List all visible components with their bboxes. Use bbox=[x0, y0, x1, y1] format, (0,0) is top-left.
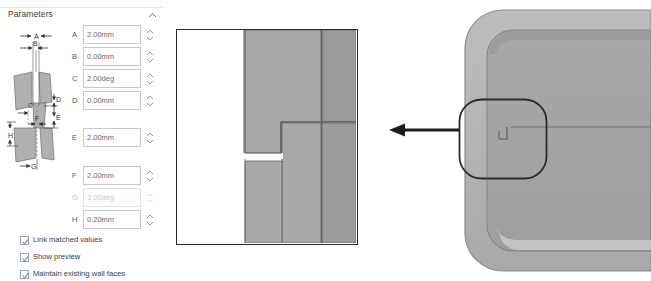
checkbox-checked-icon[interactable] bbox=[20, 270, 29, 279]
svg-text:A: A bbox=[34, 33, 39, 40]
spinner-g bbox=[145, 189, 155, 207]
checkbox-checked-icon[interactable] bbox=[20, 253, 29, 262]
parameter-input-h[interactable]: 0.20mm bbox=[83, 210, 141, 229]
svg-text:H: H bbox=[8, 132, 13, 139]
checkbox-label-link-matched-values: Link matched values bbox=[33, 235, 102, 244]
parameter-row-a[interactable]: A 2.00mm bbox=[72, 25, 164, 45]
panel-header[interactable]: Parameters bbox=[8, 9, 163, 24]
parameter-row-b[interactable]: B 0.00mm bbox=[72, 47, 164, 67]
svg-text:B: B bbox=[33, 40, 38, 47]
spinner-b[interactable] bbox=[145, 48, 155, 66]
parameters-panel: Parameters bbox=[0, 0, 170, 281]
parameter-label-e: E bbox=[72, 133, 81, 142]
parameter-value-d: 0.00mm bbox=[87, 96, 114, 105]
parameter-input-g: 3.00deg bbox=[83, 188, 141, 207]
parameter-label-a: A bbox=[72, 30, 81, 39]
parameter-value-f: 2.00mm bbox=[87, 171, 114, 180]
parameter-input-a[interactable]: 2.00mm bbox=[83, 25, 141, 44]
spinner-c[interactable] bbox=[145, 70, 155, 88]
parameter-row-f[interactable]: F 2.00mm bbox=[72, 166, 164, 186]
parameter-label-f: F bbox=[72, 171, 81, 180]
parameter-value-a: 2.00mm bbox=[87, 30, 114, 39]
parameter-value-e: 2.00mm bbox=[87, 133, 114, 142]
spinner-d[interactable] bbox=[145, 92, 155, 110]
spinner-f[interactable] bbox=[145, 167, 155, 185]
parameter-label-h: H bbox=[72, 215, 81, 224]
section-preview-graphic bbox=[177, 30, 356, 243]
svg-text:D: D bbox=[56, 96, 61, 103]
parameter-label-g: G bbox=[72, 193, 81, 202]
parameters-dimension-diagram: A B C D E F bbox=[6, 28, 70, 178]
svg-text:C: C bbox=[28, 102, 33, 109]
checkbox-label-show-preview: Show preview bbox=[33, 252, 80, 261]
chevron-up-icon[interactable] bbox=[148, 11, 157, 20]
parameter-label-c: C bbox=[72, 74, 81, 83]
feature-dialog-screenshot: Parameters bbox=[0, 0, 651, 281]
parameter-row-e[interactable]: E 2.00mm bbox=[72, 128, 164, 148]
parameter-label-b: B bbox=[72, 52, 81, 61]
checkbox-checked-icon[interactable] bbox=[20, 236, 29, 245]
parameter-input-b[interactable]: 0.00mm bbox=[83, 47, 141, 66]
svg-text:E: E bbox=[56, 114, 61, 121]
section-preview-panel bbox=[176, 29, 358, 245]
svg-text:F: F bbox=[35, 115, 39, 122]
spinner-a[interactable] bbox=[145, 26, 155, 44]
checkbox-label-maintain-existing-wall-faces: Maintain existing wall faces bbox=[33, 269, 125, 278]
parameter-value-g: 3.00deg bbox=[87, 193, 114, 202]
parameter-label-d: D bbox=[72, 96, 81, 105]
parameter-value-h: 0.20mm bbox=[87, 215, 114, 224]
page-title: Parameters bbox=[8, 9, 53, 19]
callout-arrow bbox=[388, 118, 462, 142]
parameter-input-c[interactable]: 2.00deg bbox=[83, 69, 141, 88]
parameter-row-c[interactable]: C 2.00deg bbox=[72, 69, 164, 89]
parameter-input-e[interactable]: 2.00mm bbox=[83, 128, 141, 147]
parameter-value-c: 2.00deg bbox=[87, 74, 114, 83]
parameter-input-d[interactable]: 0.00mm bbox=[83, 91, 141, 110]
spinner-e[interactable] bbox=[145, 129, 155, 147]
parameter-row-d[interactable]: D 0.00mm bbox=[72, 91, 164, 111]
parameter-row-g: G 3.00deg bbox=[72, 188, 164, 208]
svg-text:G: G bbox=[31, 163, 36, 170]
callout-region-ring bbox=[458, 98, 548, 180]
parameter-row-h[interactable]: H 0.20mm bbox=[72, 210, 164, 230]
parameter-input-f[interactable]: 2.00mm bbox=[83, 166, 141, 185]
parameter-value-b: 0.00mm bbox=[87, 52, 114, 61]
panel-top-strip bbox=[0, 0, 163, 8]
spinner-h[interactable] bbox=[145, 211, 155, 229]
